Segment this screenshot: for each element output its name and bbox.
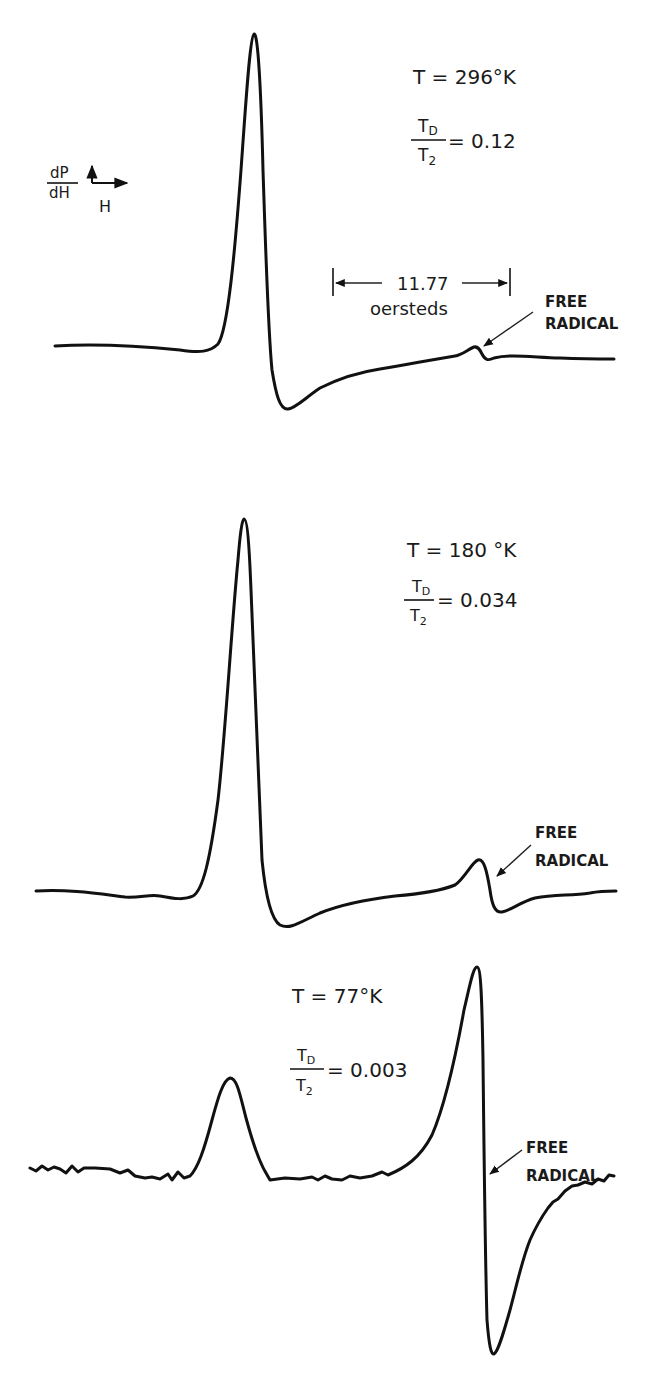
axis-y-denominator: dH [49,184,70,202]
axis-y-numerator: dP [50,164,69,182]
free-radical-label-line2: RADICAL [545,315,619,333]
spectrum-curve [30,967,614,1354]
free-radical-arrow-icon [497,845,531,876]
temperature-label: T = 180 °K [406,538,517,562]
free-radical-label-line1: FREE [545,293,587,311]
panel-77k: T = 77°K TD T2 = 0.003 FREE RADICAL [30,967,614,1354]
scale-unit: oersteds [370,298,448,319]
scale-bar: 11.77 oersteds [333,268,510,319]
esr-spectra-figure: dP dH H T = 296°K TD T2 = 0.12 11.77 oer… [0,0,669,1391]
scale-value: 11.77 [397,273,449,294]
temperature-label: T = 77°K [291,984,383,1008]
axis-x-label: H [99,197,111,216]
ratio-denominator: T2 [295,1076,313,1098]
free-radical-label-line2: RADICAL [535,852,609,870]
spectrum-curve [55,34,614,409]
ratio-numerator: TD [417,116,438,138]
ratio-numerator: TD [296,1046,315,1067]
ratio-denominator: T2 [409,606,427,628]
ratio-value: = 0.003 [327,1058,407,1082]
panel-296k: T = 296°K TD T2 = 0.12 11.77 oersteds FR… [55,34,619,409]
free-radical-arrow-icon [490,1150,522,1174]
ratio-value: = 0.12 [448,129,516,153]
axis-legend: dP dH H [47,164,127,216]
ratio-denominator: T2 [417,145,436,168]
free-radical-arrow-icon [484,312,533,346]
ratio-numerator: TD [411,577,430,598]
free-radical-label-line1: FREE [535,824,577,842]
panel-180k: T = 180 °K TD T2 = 0.034 FREE RADICAL [36,519,616,927]
ratio-value: = 0.034 [437,588,517,612]
spectrum-curve [36,519,616,927]
free-radical-label-line1: FREE [526,1139,568,1157]
temperature-label: T = 296°K [412,65,517,89]
